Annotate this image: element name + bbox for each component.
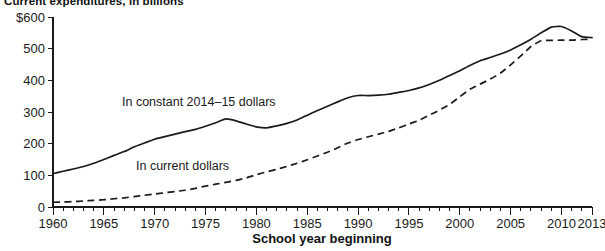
x-axis-tick-label: 1960 — [39, 216, 68, 231]
series-annotation-constant-dollars: In constant 2014–15 dollars — [122, 95, 276, 109]
series-line-current-dollars — [53, 39, 592, 202]
y-axis-tick-label: 200 — [23, 136, 45, 151]
x-axis-tick-label: 1985 — [293, 216, 322, 231]
x-axis-tick-label: 1970 — [140, 216, 169, 231]
series-annotation-current-dollars: In current dollars — [136, 159, 229, 173]
y-axis-tick-label: 0 — [38, 200, 45, 215]
y-axis-tick-group: $6005004003002001000 — [16, 10, 53, 215]
x-axis-tick-label: 2000 — [445, 216, 474, 231]
x-axis-major-tick-group: 1960196519701975198019851990199520002005… — [39, 207, 605, 231]
y-axis-tick-label: 100 — [23, 168, 45, 183]
x-axis-tick-label: 2010 — [547, 216, 576, 231]
x-axis-tick-label: 1975 — [191, 216, 220, 231]
y-axis-tick-label: 400 — [23, 73, 45, 88]
y-axis-tick-label: 500 — [23, 41, 45, 56]
x-axis-title: School year beginning — [252, 231, 391, 246]
x-axis-tick-label: 1965 — [89, 216, 118, 231]
y-axis-tick-label: 300 — [23, 105, 45, 120]
x-axis-tick-label: 2005 — [496, 216, 525, 231]
x-axis-minor-tick-group — [53, 207, 592, 211]
x-axis-tick-label: 1980 — [242, 216, 271, 231]
x-axis-tick-label: 1995 — [394, 216, 423, 231]
x-axis-tick-label: 1990 — [344, 216, 373, 231]
chart-figure: Current expenditures, in billions $60050… — [0, 0, 605, 251]
x-axis-tick-label: 2013 — [578, 216, 605, 231]
line-chart-plot: $6005004003002001000 1960196519701975198… — [0, 0, 605, 251]
y-axis-tick-label: $600 — [16, 10, 45, 25]
